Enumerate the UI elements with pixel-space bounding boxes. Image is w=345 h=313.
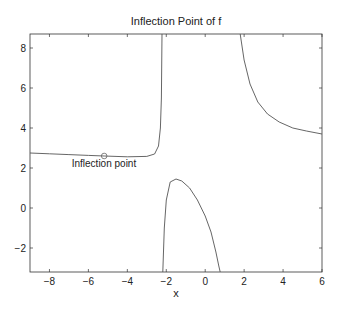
x-tick-label: −4 (122, 276, 134, 287)
chart-figure: Inflection Point of f −8−6−4−20246−20246… (0, 0, 345, 313)
inflection-point-annotation: Inflection point (72, 158, 137, 169)
curve-line (240, 34, 322, 134)
plot-area: −8−6−4−20246−202468 (15, 34, 326, 287)
curve-line (30, 34, 162, 157)
x-tick-label: −6 (83, 276, 95, 287)
y-tick-label: 4 (20, 123, 26, 134)
x-tick-label: 4 (280, 276, 286, 287)
curve-line (163, 179, 220, 272)
y-tick-label: −2 (15, 243, 27, 254)
y-tick-label: 0 (20, 203, 26, 214)
y-tick-label: 2 (20, 163, 26, 174)
chart-title: Inflection Point of f (131, 15, 222, 27)
x-tick-label: 0 (202, 276, 208, 287)
axes-box (30, 34, 322, 272)
x-tick-label: 2 (241, 276, 247, 287)
y-tick-label: 8 (20, 43, 26, 54)
x-tick-label: −2 (161, 276, 173, 287)
x-tick-label: 6 (319, 276, 325, 287)
x-axis-label: x (173, 287, 179, 299)
x-tick-label: −8 (44, 276, 56, 287)
y-tick-label: 6 (20, 83, 26, 94)
